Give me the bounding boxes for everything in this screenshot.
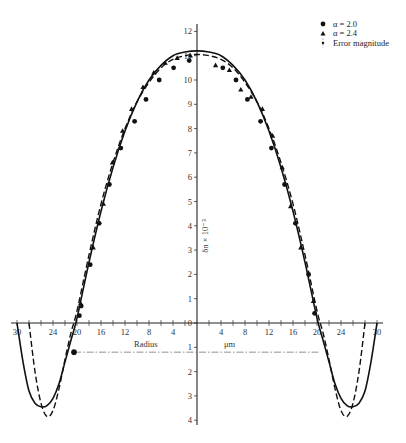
x-axis-unit: μm [224,339,236,349]
data-point-alpha-2-0 [187,58,192,63]
data-point-alpha-2-0 [97,221,102,226]
data-point-alpha-2-0 [144,97,149,102]
triangle-marker-icon [321,31,326,36]
x-tick-label: 16 [289,327,298,337]
y-tick-label: 2 [188,269,192,279]
y-tick-label: 6 [188,172,192,182]
y-axis-label: δn × 10⁻³ [200,219,210,253]
legend-item-alpha-2-4: α = 2.4 [321,28,358,38]
data-point-alpha-2-0 [171,65,176,70]
y-tick-label: 10 [184,75,193,85]
data-point-alpha-2-0 [77,313,82,318]
circle-marker-icon [321,22,326,27]
y-tick-label: 4 [188,221,193,231]
refractive-index-profile-chart: 43210123456789101112 3024201612844812162… [0,0,406,443]
error-magnitude-point [71,349,77,355]
data-point-alpha-2-0 [269,146,274,151]
data-point-alpha-2-0 [107,182,112,187]
data-point-alpha-2-4 [213,63,218,68]
x-tick-label: 12 [265,327,274,337]
data-point-alpha-2-0 [312,311,317,316]
data-markers [71,53,317,355]
x-axis-label: Radius [134,339,158,349]
data-point-alpha-2-0 [220,65,225,70]
legend-label: α = 2.4 [333,28,358,38]
legend-item-error-magnitude: Error magnitude [322,38,389,48]
y-tick-label: 8 [188,124,192,134]
y-tick-label: 9 [188,99,192,109]
x-tick-label: 30 [373,327,382,337]
x-tick-label: 16 [97,327,106,337]
data-point-alpha-2-4 [227,67,232,72]
data-point-alpha-2-0 [306,272,311,277]
y-tick-label: 2 [188,367,192,377]
y-tick-label: 5 [188,197,192,207]
x-tick-label: 30 [13,327,22,337]
y-tick-label: 1 [188,342,192,352]
data-point-alpha-2-0 [118,146,123,151]
legend: α = 2.0 α = 2.4 Error magnitude [321,19,390,48]
x-tick-label: 8 [243,327,247,337]
x-tick-label: 24 [337,327,346,337]
y-tick-label: 3 [188,391,192,401]
data-point-alpha-2-4 [238,87,243,92]
y-tick-label: 3 [188,245,192,255]
x-tick-label: 12 [121,327,130,337]
y-axis: 43210123456789101112 [184,24,198,425]
x-tick-label: 4 [171,327,176,337]
errorbar-dot-icon [322,42,324,44]
legend-label: Error magnitude [333,38,389,48]
x-tick-label: 4 [219,327,224,337]
data-point-alpha-2-0 [258,119,263,124]
x-tick-label: 8 [147,327,151,337]
x-tick-label: 24 [49,327,58,337]
data-point-alpha-2-0 [293,221,298,226]
data-point-alpha-2-0 [282,182,287,187]
data-point-alpha-2-0 [132,119,137,124]
data-point-alpha-2-0 [234,78,239,83]
y-tick-label: 12 [184,26,193,36]
data-point-alpha-2-0 [157,78,162,83]
data-point-alpha-2-0 [88,262,93,267]
y-tick-label: 7 [188,148,192,158]
y-tick-label: 4 [188,415,193,425]
y-tick-label: 1 [188,294,192,304]
